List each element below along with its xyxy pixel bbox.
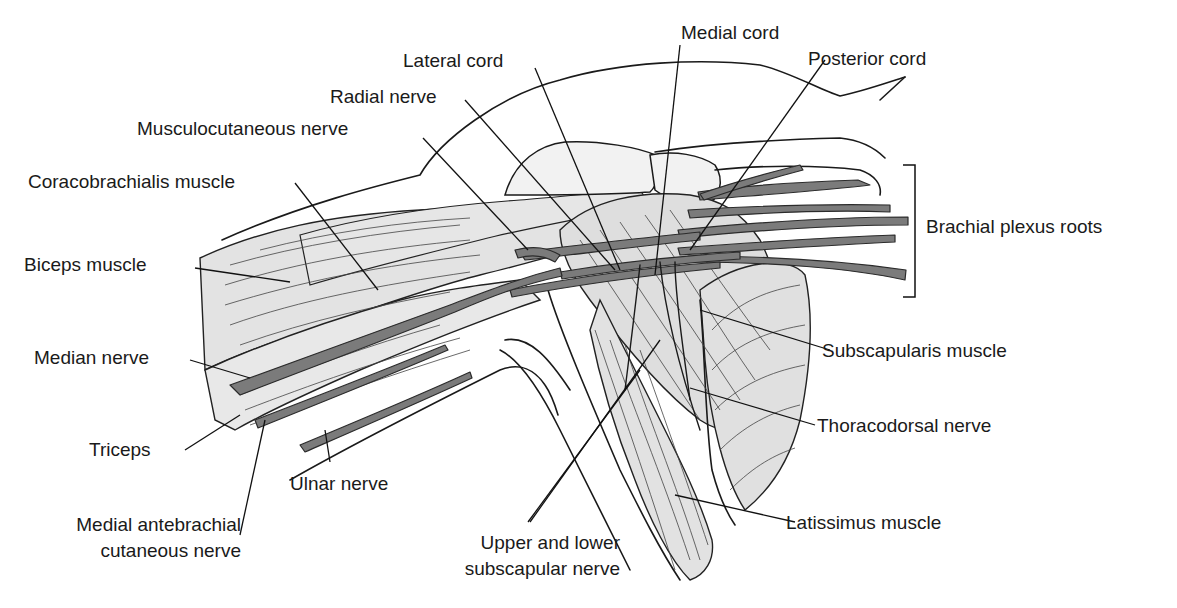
humeral-head [505, 138, 885, 205]
label-coracobrachialis-muscle: Coracobrachialis muscle [28, 171, 235, 193]
label-upper-lower-subscapular-line1: Upper and lower [420, 532, 620, 554]
label-brachial-plexus-roots: Brachial plexus roots [926, 216, 1102, 238]
label-median-nerve: Median nerve [34, 347, 149, 369]
label-medial-antebrachial-line1: Medial antebrachial [26, 514, 241, 536]
label-posterior-cord: Posterior cord [808, 48, 926, 70]
label-subscapularis-muscle: Subscapularis muscle [822, 340, 1007, 362]
label-medial-cord: Medial cord [681, 22, 779, 44]
label-thoracodorsal-nerve: Thoracodorsal nerve [817, 415, 991, 437]
label-lateral-cord: Lateral cord [403, 50, 503, 72]
label-ulnar-nerve: Ulnar nerve [290, 473, 388, 495]
label-medial-antebrachial-line2: cutaneous nerve [26, 540, 241, 562]
label-upper-lower-subscapular-line2: subscapular nerve [420, 558, 620, 580]
label-radial-nerve: Radial nerve [330, 86, 437, 108]
label-musculocutaneous-nerve: Musculocutaneous nerve [137, 118, 348, 140]
serratus-muscle-shape [700, 263, 810, 525]
label-triceps: Triceps [89, 439, 151, 461]
label-latissimus-muscle: Latissimus muscle [786, 512, 941, 534]
label-biceps-muscle: Biceps muscle [24, 254, 147, 276]
label-upper-lower-subscapular-nerve: Upper and lower subscapular nerve [420, 532, 620, 580]
label-medial-antebrachial-cutaneous-nerve: Medial antebrachial cutaneous nerve [26, 514, 241, 562]
